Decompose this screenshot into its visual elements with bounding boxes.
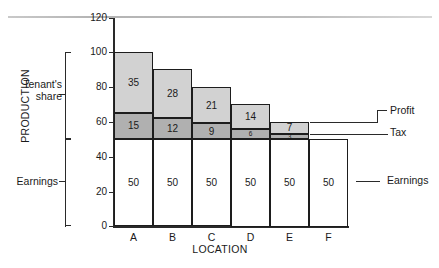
tax-leader-horizontal [310,134,388,135]
bar-B-tax-segment[interactable]: 12 [153,118,192,139]
bar-F-earnings-value: 50 [323,177,334,188]
y-tick-mark-80 [109,87,113,88]
legend-label-profit: Profit [390,104,415,116]
y-tick-mark-0 [109,226,113,227]
bar-A-earnings-value: 50 [128,177,139,188]
profit-leader-vertical [377,110,378,123]
legend-label-earnings: Earnings [387,174,428,186]
bar-D-earnings-segment[interactable]: 50 [231,139,270,227]
y-tick-mark-100 [109,52,113,53]
bar-A[interactable]: 35 15 50 [114,52,153,227]
bar-E[interactable]: 7 3 50 [270,122,309,227]
x-tick-label-E: E [270,231,310,243]
y-tick-label-40: 40 [71,152,107,162]
x-tick-label-C: C [192,231,232,243]
y-tick-mark-40 [109,157,113,158]
bar-D-profit-value: 14 [245,111,256,122]
bar-A-earnings-segment[interactable]: 50 [114,139,153,227]
bar-B-tax-value: 12 [167,123,178,134]
bracket-label-tenants-share: Tenant's share [2,78,62,102]
bar-A-tax-segment[interactable]: 15 [114,113,153,139]
x-tick-label-F: F [309,231,349,243]
bar-F[interactable]: 50 [309,139,348,226]
bar-C-profit-value: 21 [206,100,217,111]
bar-D-earnings-value: 50 [245,177,256,188]
bracket-label-earnings: Earnings [0,175,58,187]
bar-B[interactable]: 28 12 50 [153,69,192,226]
y-tick-label-80: 80 [71,82,107,92]
bar-D[interactable]: 14 6 50 [231,104,270,226]
bar-B-profit-value: 28 [167,88,178,99]
bar-E-earnings-segment[interactable]: 50 [270,139,309,227]
y-tick-label-20: 20 [71,187,107,197]
bar-C-tax-segment[interactable]: 9 [192,123,231,139]
bar-C[interactable]: 21 9 50 [192,87,231,227]
bar-F-earnings-segment[interactable]: 50 [309,139,348,227]
earnings-leader-horizontal [356,181,380,182]
x-tick-label-D: D [231,231,271,243]
bar-C-profit-segment[interactable]: 21 [192,87,231,124]
bar-C-tax-value: 9 [209,126,215,137]
bracket-label-tenants-share-line2: share [2,90,62,102]
bar-D-tax-segment[interactable]: 6 [231,129,270,139]
bar-E-profit-segment[interactable]: 7 [270,122,309,134]
x-axis-title: LOCATION [110,243,330,255]
y-tick-mark-20 [109,192,113,193]
bar-A-profit-segment[interactable]: 35 [114,52,153,113]
bar-E-profit-value: 7 [287,122,293,133]
chart-canvas: PRODUCTION 120 100 80 60 40 20 0 35 15 5… [0,0,439,268]
bar-A-profit-value: 35 [128,77,139,88]
y-tick-label-0: 0 [71,221,107,231]
bar-A-tax-value: 15 [128,120,139,131]
bar-B-profit-segment[interactable]: 28 [153,69,192,118]
y-tick-mark-60 [109,122,113,123]
y-tick-label-60: 60 [71,117,107,127]
bar-C-earnings-segment[interactable]: 50 [192,139,231,227]
bar-D-tax-value: 6 [249,130,253,137]
bar-E-earnings-value: 50 [284,177,295,188]
bar-B-earnings-segment[interactable]: 50 [153,139,192,227]
legend-label-tax: Tax [390,126,406,138]
y-tick-mark-120 [109,18,113,19]
bar-C-earnings-value: 50 [206,177,217,188]
y-axis-title: PRODUCTION [19,46,31,166]
profit-leader-cap [377,110,387,111]
x-tick-label-B: B [153,231,193,243]
bracket-label-tenants-share-line1: Tenant's [2,78,62,90]
x-tick-label-A: A [114,231,154,243]
bar-D-profit-segment[interactable]: 14 [231,104,270,128]
y-tick-label-120: 120 [71,13,107,23]
bar-B-earnings-value: 50 [167,177,178,188]
profit-leader-horizontal [310,122,378,123]
y-tick-label-100: 100 [71,47,107,57]
